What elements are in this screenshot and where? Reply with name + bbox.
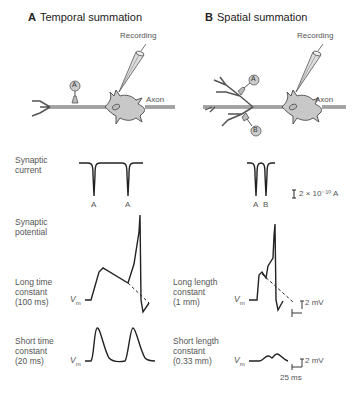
time-scale-label: 25 ms — [280, 373, 302, 382]
recording-label-b: Recording — [297, 31, 333, 40]
axon-label-a: Axon — [146, 95, 164, 104]
current-event-a2: A — [125, 200, 130, 209]
current-scale-label: 2 × 10⁻¹⁰ A — [299, 189, 338, 198]
short-time-constant-trace — [85, 328, 155, 362]
axon-label-b: Axon — [315, 95, 333, 104]
long-time-constant-label: Long time constant (100 ms) — [15, 277, 52, 307]
synapse-a-label-panel-b: A — [251, 75, 256, 82]
vm-label-short-b: Vm — [234, 355, 245, 367]
vm-label-long-a: Vm — [70, 294, 81, 306]
current-event-b-a: A — [253, 200, 258, 209]
synaptic-current-traces — [79, 163, 296, 198]
synapse-b-label-panel-b: B — [253, 126, 258, 133]
long-length-constant-label: Long length constant (1 mm) — [173, 277, 217, 307]
short-time-constant-label: Short time constant (20 ms) — [15, 336, 54, 366]
vm-label-long-b: Vm — [234, 294, 245, 306]
neuron-b — [203, 44, 346, 136]
long-length-constant-trace — [249, 224, 304, 317]
long-time-constant-trace — [85, 215, 149, 312]
vm-label-short-a: Vm — [70, 355, 81, 367]
synaptic-potential-label: Synaptic potential — [15, 217, 48, 237]
voltage-scale-short-label: 2 mV — [305, 356, 324, 365]
synapse-a-label-panel-a: A — [72, 81, 77, 88]
recording-label-a: Recording — [120, 31, 156, 40]
neuron-a — [32, 44, 175, 124]
voltage-scale-long-label: 2 mV — [305, 298, 324, 307]
current-event-b-b: B — [263, 200, 268, 209]
current-event-a1: A — [91, 200, 96, 209]
short-length-constant-trace — [249, 354, 304, 370]
short-length-constant-label: Short length constant (0.33 mm) — [173, 336, 219, 366]
synaptic-current-label: Synaptic current — [15, 155, 48, 175]
